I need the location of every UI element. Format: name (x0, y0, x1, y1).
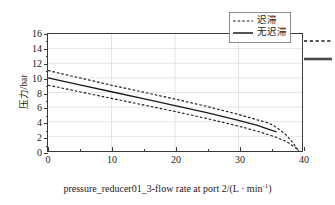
y-tick-label: 0 (37, 148, 42, 158)
y-tick (44, 79, 48, 80)
y-tick-label: 16 (32, 29, 42, 39)
chart-root: 压力/bar 0246810121416010203040 迟滞 无迟滞 pre… (0, 0, 335, 205)
x-tick-minor (144, 149, 145, 151)
y-tick (44, 108, 48, 109)
y-tick (44, 138, 48, 139)
legend-item-label: 无迟滞 (257, 28, 287, 38)
solid-sample-icon (304, 54, 332, 64)
x-axis-title: pressure_reducer01_3-flow rate at port 2… (0, 182, 335, 194)
dashed-sample-icon (304, 36, 332, 46)
x-tick-minor (272, 149, 273, 151)
x-tick (240, 147, 241, 151)
x-tick (48, 147, 49, 151)
x-axis-title-tail: ) (268, 183, 271, 194)
y-tick-minor (46, 71, 48, 72)
y-tick (44, 94, 48, 95)
y-tick-minor (46, 116, 48, 117)
y-tick (44, 64, 48, 65)
y-tick-label: 12 (32, 59, 42, 69)
y-tick-minor (46, 56, 48, 57)
x-tick-minor (80, 149, 81, 151)
y-tick-minor (46, 101, 48, 102)
y-tick (44, 34, 48, 35)
y-tick (44, 123, 48, 124)
y-tick-minor (46, 41, 48, 42)
y-tick-minor (46, 131, 48, 132)
y-tick-minor (46, 86, 48, 87)
data-curves (48, 34, 302, 151)
legend-dashed-icon (233, 17, 253, 25)
x-tick-label: 40 (299, 155, 309, 165)
legend-solid-icon (233, 29, 253, 37)
x-tick-label: 0 (46, 155, 51, 165)
legend-item-label: 迟滞 (257, 16, 277, 26)
x-tick (304, 147, 305, 151)
x-tick-minor (208, 149, 209, 151)
x-tick-label: 30 (235, 155, 245, 165)
y-tick-label: 6 (37, 103, 42, 113)
legend-item: 迟滞 (233, 15, 287, 27)
y-tick-label: 10 (32, 74, 42, 84)
legend-item: 无迟滞 (233, 27, 287, 39)
x-tick-label: 10 (107, 155, 117, 165)
y-tick-label: 14 (32, 44, 42, 54)
y-tick-label: 4 (37, 118, 42, 128)
plot-area: 0246810121416010203040 (47, 33, 303, 152)
y-axis-title: 压力/bar (16, 75, 30, 110)
x-tick (176, 147, 177, 151)
x-axis-title-main: pressure_reducer01_3-flow rate at port 2… (63, 183, 262, 194)
x-tick-label: 20 (171, 155, 181, 165)
y-tick-label: 8 (37, 89, 42, 99)
y-tick (44, 49, 48, 50)
legend: 迟滞 无迟滞 (229, 12, 291, 43)
y-tick-label: 2 (37, 133, 42, 143)
x-tick (112, 147, 113, 151)
